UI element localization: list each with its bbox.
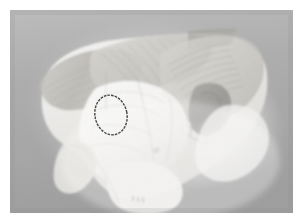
anatomical-photograph	[10, 10, 293, 213]
screenshot-root	[0, 0, 302, 224]
photograph-canvas	[10, 10, 293, 213]
film-grain-overlay	[10, 10, 293, 213]
